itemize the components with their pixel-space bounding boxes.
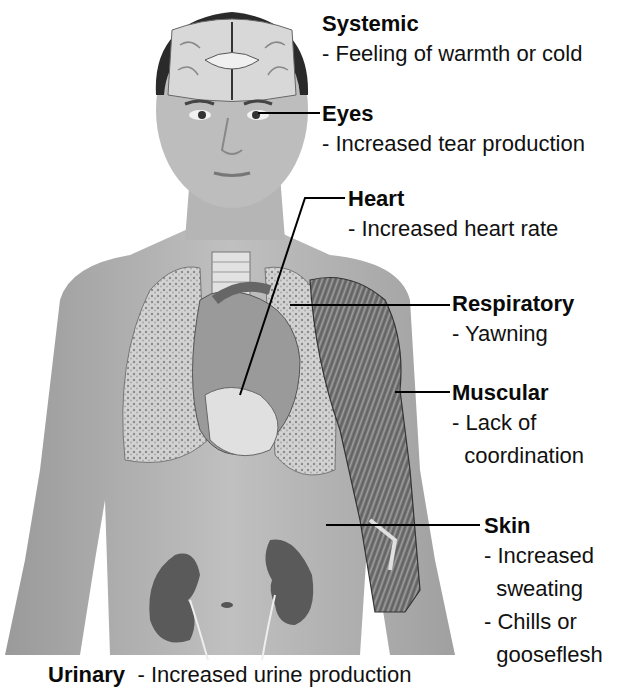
label-title: Eyes	[322, 101, 585, 127]
label-item: - Feeling of warmth or cold	[322, 37, 582, 70]
label-eyes: Eyes - Increased tear production	[322, 101, 585, 160]
label-muscular: Muscular - Lack of coordination	[452, 380, 584, 472]
label-item: - Chills or	[484, 605, 603, 638]
label-item: - Increased	[484, 539, 603, 572]
head	[156, 12, 308, 208]
brain	[168, 19, 296, 102]
label-title: Urinary	[48, 662, 125, 687]
label-item: sweating	[484, 572, 603, 605]
label-item: - Yawning	[452, 317, 574, 350]
label-item: - Increased heart rate	[348, 212, 558, 245]
label-item: - Lack of	[452, 406, 584, 439]
label-title: Respiratory	[452, 291, 574, 317]
label-title: Muscular	[452, 380, 584, 406]
label-systemic: Systemic - Feeling of warmth or cold	[322, 11, 582, 70]
label-item: - Increased urine production	[138, 662, 412, 687]
label-title: Systemic	[322, 11, 582, 37]
label-heart: Heart - Increased heart rate	[348, 186, 558, 245]
label-title: Skin	[484, 513, 603, 539]
label-urinary: Urinary - Increased urine production	[48, 658, 411, 691]
label-item: - Increased tear production	[322, 127, 585, 160]
label-skin: Skin - Increased sweating - Chills or go…	[484, 513, 603, 671]
label-respiratory: Respiratory - Yawning	[452, 291, 574, 350]
label-item: coordination	[452, 439, 584, 472]
label-item: gooseflesh	[484, 638, 603, 671]
label-title: Heart	[348, 186, 558, 212]
